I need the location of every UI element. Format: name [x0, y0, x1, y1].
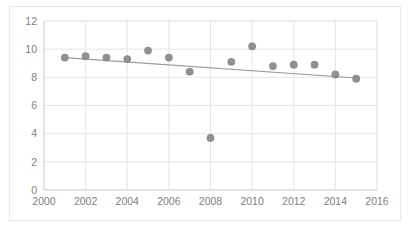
data-point [311, 61, 319, 69]
x-tick-label: 2004 [116, 195, 140, 207]
data-point [82, 52, 90, 60]
data-point [248, 42, 256, 50]
data-point [269, 62, 277, 70]
x-tick-label: 2008 [199, 195, 223, 207]
y-tick-label: 6 [31, 99, 37, 111]
y-tick-label: 12 [25, 15, 37, 27]
x-tick-label: 2014 [324, 195, 348, 207]
x-tick-label: 2016 [365, 195, 389, 207]
y-tick-label: 4 [31, 127, 37, 139]
y-tick-label: 8 [31, 71, 37, 83]
chart-container: 121086420 200020022004200620082010201220… [0, 0, 414, 231]
scatter-chart: 121086420 200020022004200620082010201220… [0, 0, 414, 231]
y-axis-tick-labels: 121086420 [25, 15, 37, 196]
data-point [144, 47, 152, 55]
data-point [207, 134, 215, 142]
x-tick-label: 2002 [74, 195, 98, 207]
data-point [331, 71, 339, 79]
x-axis-tick-labels: 200020022004200620082010201220142016 [32, 195, 389, 207]
data-point [227, 58, 235, 66]
y-tick-label: 2 [31, 156, 37, 168]
data-point [61, 54, 69, 62]
data-point [290, 61, 298, 69]
x-tick-label: 2010 [240, 195, 264, 207]
y-tick-label: 0 [31, 184, 37, 196]
x-tick-label: 2012 [282, 195, 306, 207]
data-point [103, 54, 111, 62]
data-point [165, 54, 173, 62]
data-point [123, 55, 131, 63]
data-point [186, 68, 194, 76]
data-point [352, 75, 360, 83]
x-tick-label: 2000 [32, 195, 56, 207]
x-tick-label: 2006 [157, 195, 181, 207]
y-tick-label: 10 [25, 43, 37, 55]
